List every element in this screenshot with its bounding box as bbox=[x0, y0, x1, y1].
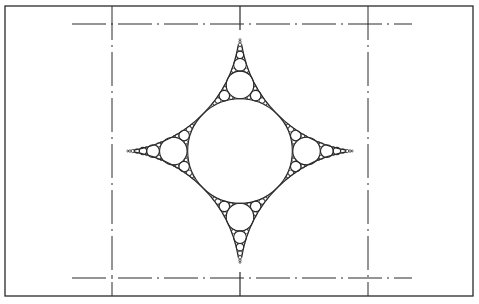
packed-circle bbox=[160, 137, 188, 165]
apollonian-packing-diagram bbox=[0, 0, 479, 304]
packed-circle bbox=[266, 104, 268, 106]
packed-circle bbox=[247, 72, 249, 74]
packed-circle bbox=[217, 96, 219, 98]
packed-circle bbox=[345, 149, 348, 152]
packed-circle bbox=[253, 87, 257, 91]
packed-circle bbox=[230, 228, 232, 230]
packed-circle bbox=[223, 87, 227, 91]
packed-circle bbox=[245, 203, 247, 205]
packed-circle bbox=[292, 156, 294, 158]
diagram-canvas bbox=[0, 0, 479, 304]
packed-circle bbox=[223, 212, 227, 216]
packed-circle bbox=[242, 57, 244, 59]
packed-circle bbox=[285, 177, 287, 179]
circle-packing bbox=[127, 39, 353, 264]
packed-circle bbox=[211, 196, 213, 198]
packed-circle bbox=[230, 72, 232, 74]
outer-tangent-circles bbox=[134, 6, 347, 296]
packed-circle bbox=[229, 96, 233, 100]
packed-circle bbox=[292, 158, 296, 162]
packed-circle bbox=[239, 39, 241, 41]
packed-circle bbox=[233, 203, 235, 205]
packed-circle bbox=[242, 243, 244, 245]
packed-circle bbox=[129, 150, 131, 152]
packed-circle bbox=[233, 97, 235, 99]
packed-circle bbox=[211, 104, 213, 106]
packed-circle bbox=[292, 140, 296, 144]
outer-circle-arc bbox=[242, 45, 347, 151]
packed-circle bbox=[239, 41, 241, 43]
packed-circle bbox=[254, 215, 256, 217]
packed-circle bbox=[261, 96, 263, 98]
outer-circle-arc bbox=[134, 152, 239, 258]
packed-circle bbox=[235, 243, 237, 245]
packed-circle bbox=[239, 261, 241, 263]
packed-circle bbox=[238, 46, 243, 51]
packed-circle bbox=[186, 156, 188, 158]
packed-circle bbox=[254, 85, 256, 87]
packed-circle bbox=[261, 204, 263, 206]
packed-circle bbox=[247, 228, 249, 230]
packed-circle bbox=[293, 137, 321, 165]
packed-circle bbox=[131, 149, 134, 152]
packed-circle bbox=[247, 203, 251, 207]
packed-circle bbox=[245, 97, 247, 99]
packed-circle bbox=[351, 150, 353, 152]
drawing-frame bbox=[5, 6, 473, 296]
packed-circle bbox=[193, 123, 195, 125]
packed-circle bbox=[127, 150, 129, 152]
outer-circle-arc bbox=[134, 45, 239, 151]
packed-circle bbox=[226, 71, 254, 99]
packed-circle bbox=[188, 99, 293, 204]
packed-circle bbox=[238, 251, 243, 256]
packed-circle bbox=[193, 177, 195, 179]
packed-circle bbox=[184, 140, 188, 144]
outer-circle-arc bbox=[242, 152, 347, 258]
packed-circle bbox=[217, 204, 219, 206]
packed-circle bbox=[235, 57, 237, 59]
packed-circle bbox=[292, 144, 294, 146]
packed-circle bbox=[266, 196, 268, 198]
packed-circle bbox=[229, 203, 233, 207]
packed-circle bbox=[247, 96, 251, 100]
packed-circle bbox=[349, 150, 351, 152]
packed-circle bbox=[184, 158, 188, 162]
packed-circle bbox=[186, 144, 188, 146]
packed-circle bbox=[253, 212, 257, 216]
packed-circle bbox=[226, 203, 254, 231]
packed-circle bbox=[224, 215, 226, 217]
packed-circle bbox=[224, 85, 226, 87]
packed-circle bbox=[239, 259, 241, 261]
packed-circle bbox=[285, 123, 287, 125]
